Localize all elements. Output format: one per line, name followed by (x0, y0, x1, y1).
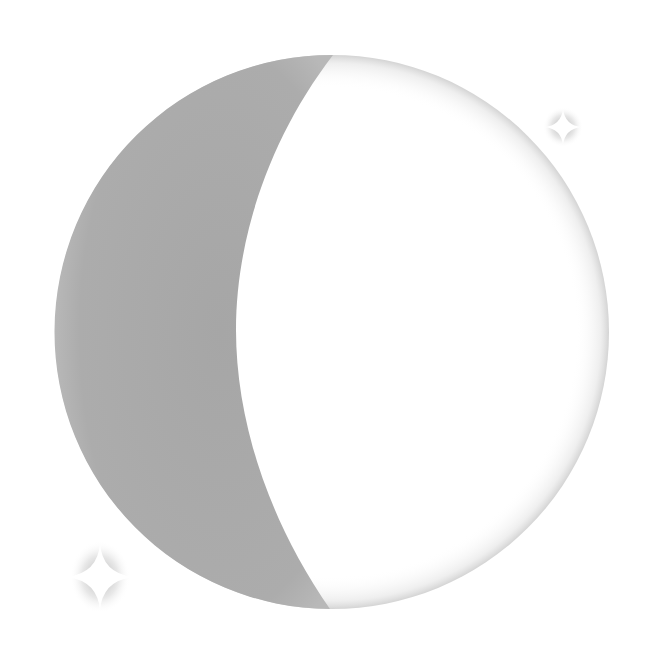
moon (54, 55, 609, 609)
sparkle-icon-bottom-left (67, 541, 133, 613)
sparkle-icon-top-right (543, 107, 583, 147)
crescent-moon-illustration: crescent moon with sparkles (0, 0, 647, 661)
